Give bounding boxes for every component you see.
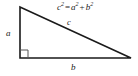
right-angle-marker-icon (20, 50, 28, 58)
pythagorean-equation: c2=a2+b2 (57, 3, 93, 12)
equation-plus-sign: + (79, 2, 86, 12)
side-label-c: c (67, 18, 71, 27)
equation-term2-exponent: 2 (90, 1, 93, 7)
side-label-a: a (6, 29, 11, 38)
side-label-b: b (71, 63, 76, 72)
triangle-outline (20, 7, 131, 58)
figure-canvas: c2=a2+b2 a b c (0, 0, 138, 76)
